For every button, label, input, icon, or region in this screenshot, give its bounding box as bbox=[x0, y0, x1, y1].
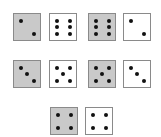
pip-dot bbox=[104, 113, 108, 117]
die-white-5 bbox=[49, 60, 77, 88]
die-gray-3 bbox=[13, 60, 41, 88]
pip-dot bbox=[94, 32, 98, 36]
pip-dot bbox=[129, 66, 133, 70]
pip-dot bbox=[55, 25, 59, 29]
pip-dot bbox=[61, 72, 65, 76]
pip-dot bbox=[142, 79, 146, 83]
die-white-3 bbox=[123, 60, 151, 88]
pip-dot bbox=[91, 113, 95, 117]
pip-dot bbox=[94, 66, 98, 70]
die-white-2 bbox=[123, 13, 151, 41]
die-gray-6 bbox=[88, 13, 116, 41]
pip-dot bbox=[56, 113, 60, 117]
pip-dot bbox=[55, 32, 59, 36]
pip-dot bbox=[107, 32, 111, 36]
pip-dot bbox=[68, 25, 72, 29]
pip-dot bbox=[68, 79, 72, 83]
pip-dot bbox=[55, 19, 59, 23]
pip-dot bbox=[19, 66, 23, 70]
pip-dot bbox=[55, 66, 59, 70]
pip-dot bbox=[68, 32, 72, 36]
die-gray-2 bbox=[13, 13, 41, 41]
pip-dot bbox=[107, 25, 111, 29]
pip-dot bbox=[32, 32, 36, 36]
pip-dot bbox=[94, 19, 98, 23]
die-white-6 bbox=[49, 13, 77, 41]
pip-dot bbox=[56, 126, 60, 130]
pip-dot bbox=[104, 126, 108, 130]
pip-dot bbox=[32, 79, 36, 83]
pip-dot bbox=[68, 19, 72, 23]
pip-dot bbox=[25, 72, 29, 76]
pip-dot bbox=[69, 113, 73, 117]
pip-dot bbox=[107, 66, 111, 70]
pip-dot bbox=[135, 72, 139, 76]
pip-dot bbox=[142, 32, 146, 36]
pip-dot bbox=[100, 72, 104, 76]
pip-dot bbox=[107, 79, 111, 83]
pip-dot bbox=[68, 66, 72, 70]
pip-dot bbox=[94, 79, 98, 83]
pip-dot bbox=[91, 126, 95, 130]
die-gray-5 bbox=[88, 60, 116, 88]
pip-dot bbox=[129, 19, 133, 23]
pip-dot bbox=[55, 79, 59, 83]
pip-dot bbox=[107, 19, 111, 23]
die-gray-4 bbox=[50, 107, 78, 135]
pip-dot bbox=[94, 25, 98, 29]
die-white-4 bbox=[85, 107, 113, 135]
pip-dot bbox=[19, 19, 23, 23]
pip-dot bbox=[69, 126, 73, 130]
